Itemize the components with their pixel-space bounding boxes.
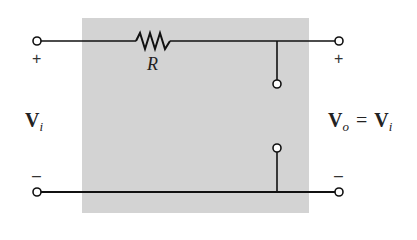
inner-open-terminal-lower bbox=[273, 144, 281, 152]
output-plus-sign: + bbox=[334, 51, 343, 67]
inner-open-terminal-upper bbox=[273, 80, 281, 88]
output-minus-sign: – bbox=[334, 168, 343, 184]
output-terminal-plus bbox=[335, 37, 343, 45]
resistor-symbol bbox=[136, 33, 170, 49]
resistor-label: R bbox=[147, 55, 158, 73]
input-plus-sign: + bbox=[32, 51, 41, 67]
output-voltage-equation: Vo=Vi bbox=[328, 110, 392, 133]
input-voltage-label: Vi bbox=[25, 110, 43, 133]
input-terminal-plus bbox=[33, 37, 41, 45]
input-terminal-minus bbox=[33, 188, 41, 196]
output-terminal-minus bbox=[335, 188, 343, 196]
input-minus-sign: – bbox=[32, 168, 41, 184]
